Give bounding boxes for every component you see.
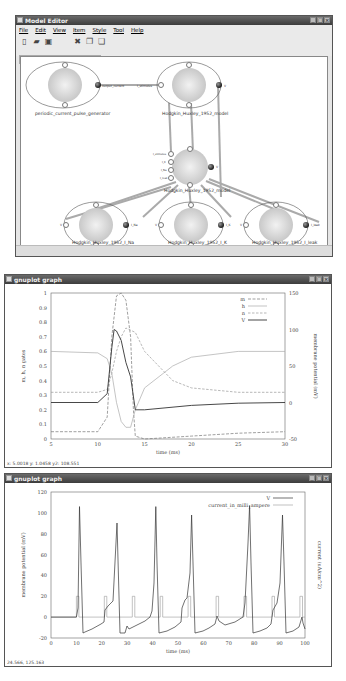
cursor-coordinates: x: 5.0018 y: 1.0458 y2: 108.551 bbox=[7, 461, 79, 466]
paste-icon[interactable]: ❏ bbox=[97, 37, 106, 46]
port-i-na[interactable] bbox=[169, 168, 174, 173]
y2-axis-label: current (uA/cm^2) bbox=[317, 541, 323, 589]
svg-text:I_leak: I_leak bbox=[311, 223, 320, 227]
port-top[interactable] bbox=[188, 147, 193, 152]
window-title: Model Editor bbox=[25, 17, 68, 24]
port-top[interactable] bbox=[63, 63, 68, 68]
svg-text:15: 15 bbox=[141, 441, 147, 447]
port-top[interactable] bbox=[189, 203, 194, 208]
delete-icon[interactable]: ✖ bbox=[73, 37, 82, 46]
svg-text:V: V bbox=[216, 165, 219, 169]
menu-style[interactable]: Style bbox=[92, 26, 106, 34]
svg-text:20: 20 bbox=[99, 640, 105, 646]
port-i-leak[interactable] bbox=[169, 176, 174, 181]
port-i-stimulus[interactable] bbox=[169, 152, 174, 157]
copy-icon[interactable]: ❐ bbox=[85, 37, 94, 46]
new-file-icon[interactable]: ▯ bbox=[20, 37, 29, 46]
app-icon bbox=[17, 17, 23, 23]
cursor-coordinates: 24.566, 125.163 bbox=[7, 660, 44, 665]
model-editor-titlebar[interactable]: Model Editor _ □ × bbox=[16, 16, 332, 25]
port-v[interactable] bbox=[244, 223, 249, 228]
svg-text:0.7: 0.7 bbox=[39, 334, 47, 340]
svg-text:50: 50 bbox=[289, 363, 295, 369]
y-axis-ticks: -20 0 20 40 60 80 100 120 bbox=[37, 489, 47, 641]
model-canvas[interactable]: output_current periodic_current_pulse_ge… bbox=[20, 56, 328, 246]
close-button[interactable]: × bbox=[324, 17, 330, 23]
gnuplot-window-gates: gnuplot graph _ □ × 0 0.1 0.2 0.3 0.4 0.… bbox=[4, 274, 332, 468]
port-v[interactable] bbox=[216, 82, 222, 88]
app-icon bbox=[6, 475, 12, 481]
plot2-titlebar[interactable]: gnuplot graph _ □ × bbox=[5, 474, 331, 483]
window-title: gnuplot graph bbox=[14, 475, 62, 482]
maximize-button[interactable]: □ bbox=[317, 17, 323, 23]
port-v[interactable] bbox=[159, 223, 164, 228]
maximize-button[interactable]: □ bbox=[316, 475, 322, 481]
menu-help[interactable]: Help bbox=[131, 26, 144, 34]
svg-text:I_leak: I_leak bbox=[160, 177, 168, 180]
port-i-na[interactable] bbox=[123, 222, 129, 228]
model-editor-window: Model Editor _ □ × File Edit View Item S… bbox=[15, 15, 333, 257]
menu-file[interactable]: File bbox=[19, 26, 28, 34]
svg-text:0.9: 0.9 bbox=[39, 305, 47, 311]
port-top[interactable] bbox=[94, 203, 99, 208]
menu-item[interactable]: Item bbox=[73, 26, 86, 34]
svg-text:10: 10 bbox=[73, 640, 79, 646]
svg-text:120: 120 bbox=[37, 489, 47, 495]
svg-text:100: 100 bbox=[300, 640, 310, 646]
port-v[interactable] bbox=[64, 223, 69, 228]
port-top[interactable] bbox=[274, 203, 279, 208]
port-bottom[interactable] bbox=[187, 103, 192, 108]
close-button[interactable]: × bbox=[323, 475, 329, 481]
port-v[interactable] bbox=[208, 164, 214, 170]
minimize-button[interactable]: _ bbox=[310, 17, 316, 23]
svg-text:0.8: 0.8 bbox=[39, 319, 47, 325]
svg-text:100: 100 bbox=[289, 327, 299, 333]
svg-text:0: 0 bbox=[44, 614, 47, 620]
svg-text:25: 25 bbox=[235, 441, 241, 447]
port-bottom[interactable] bbox=[188, 183, 193, 188]
port-output-current[interactable] bbox=[95, 82, 101, 88]
model-diagram: output_current periodic_current_pulse_ge… bbox=[21, 57, 328, 245]
svg-text:30: 30 bbox=[282, 441, 288, 447]
svg-text:0.5: 0.5 bbox=[39, 363, 47, 369]
svg-text:0.1: 0.1 bbox=[39, 421, 47, 427]
svg-text:0: 0 bbox=[289, 400, 292, 406]
svg-text:10: 10 bbox=[95, 441, 101, 447]
svg-text:I_stimulus: I_stimulus bbox=[153, 153, 167, 156]
minimize-button[interactable]: _ bbox=[309, 475, 315, 481]
svg-text:m: m bbox=[240, 296, 245, 302]
series-current bbox=[51, 596, 305, 617]
save-icon[interactable]: ▣ bbox=[44, 37, 53, 46]
svg-text:V: V bbox=[240, 223, 243, 227]
voltage-plot[interactable]: -20 0 20 40 60 80 100 120 0 10 20 30 40 … bbox=[5, 483, 331, 658]
svg-text:0: 0 bbox=[44, 436, 47, 442]
menu-view[interactable]: View bbox=[53, 26, 66, 34]
svg-text:60: 60 bbox=[41, 552, 47, 558]
node-hodgkin-huxley-model-top[interactable]: I_stimulus V Hodgkin_Huxley_1952_model bbox=[137, 62, 228, 117]
node-i-leak[interactable]: V I_leak bbox=[240, 202, 320, 245]
svg-text:n: n bbox=[242, 310, 246, 316]
port-bottom[interactable] bbox=[63, 103, 68, 108]
port-i-k[interactable] bbox=[218, 222, 224, 228]
port-top[interactable] bbox=[187, 63, 192, 68]
svg-text:I_Na: I_Na bbox=[131, 223, 138, 227]
port-i-leak[interactable] bbox=[303, 222, 309, 228]
open-folder-icon[interactable]: ▰ bbox=[32, 37, 41, 46]
node-i-k[interactable]: V I_K bbox=[155, 202, 231, 245]
node-i-na[interactable]: V I_Na bbox=[60, 202, 138, 245]
menu-edit[interactable]: Edit bbox=[35, 26, 46, 34]
port-i-k[interactable] bbox=[169, 160, 174, 165]
close-button[interactable]: × bbox=[323, 276, 329, 282]
plot1-titlebar[interactable]: gnuplot graph _ □ × bbox=[5, 275, 331, 284]
gates-plot[interactable]: 0 0.1 0.2 0.3 0.4 0.5 0.6 0.7 0.8 0.9 1 … bbox=[5, 284, 331, 459]
window-title: gnuplot graph bbox=[14, 276, 62, 283]
x-axis-label: time (ms) bbox=[166, 648, 190, 654]
svg-text:0: 0 bbox=[49, 640, 52, 646]
minimize-button[interactable]: _ bbox=[309, 276, 315, 282]
svg-text:-50: -50 bbox=[289, 436, 297, 442]
x-axis-label: time (ms) bbox=[156, 449, 180, 455]
node-periodic-current-pulse-generator[interactable]: output_current periodic_current_pulse_ge… bbox=[26, 62, 125, 117]
port-i-stimulus[interactable] bbox=[159, 83, 164, 88]
maximize-button[interactable]: □ bbox=[316, 276, 322, 282]
menu-tool[interactable]: Tool bbox=[113, 26, 124, 34]
